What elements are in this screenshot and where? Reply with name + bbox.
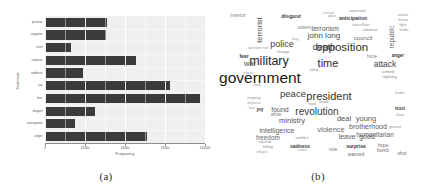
y-tick-label: positive (32, 21, 44, 24)
y-tick-label: anger (35, 135, 44, 138)
word-cloud-term: food (308, 103, 315, 107)
x-tick-label: 0 (44, 146, 46, 150)
word-cloud-term: sourcStart (352, 24, 369, 28)
word-cloud-term: war (244, 60, 256, 68)
panel-a-bar-chart: Sentiment positivenegativetrustsurprises… (0, 0, 212, 184)
word-cloud-term: death (313, 43, 336, 52)
word-cloud-term: intelligence (259, 127, 294, 134)
word-cloud-term: young (356, 115, 376, 123)
grid-line-horizontal (45, 67, 205, 68)
x-axis-tick-labels: 0250005000075000100000 (45, 144, 205, 152)
y-tick-label: disgust (33, 110, 44, 113)
word-cloud-term: plan (328, 15, 335, 19)
word-cloud-term: break (319, 101, 329, 105)
word-cloud-term: crisis (298, 149, 307, 153)
bar (45, 56, 136, 65)
panel-a-caption: (a) (0, 170, 212, 182)
y-tick-label: negative (31, 33, 44, 36)
y-tick-label: sadness (31, 72, 44, 75)
y-tick-label: fear (37, 97, 44, 100)
word-cloud-term: conflict (295, 136, 308, 140)
word-cloud-term: leave (339, 133, 356, 140)
bar-chart-area: Sentiment positivenegativetrustsurprises… (0, 6, 212, 156)
word-cloud-term: terrorism (311, 25, 339, 32)
word-cloud-term: vote (329, 148, 338, 153)
word-cloud-term: attend (243, 72, 252, 75)
word-cloud-term: surprise (346, 144, 366, 149)
word-cloud-term: force (367, 55, 377, 60)
bar (45, 30, 106, 39)
grid-line-horizontal (45, 130, 205, 131)
word-cloud-term: violent (297, 26, 310, 31)
word-cloud-term: shot (397, 152, 406, 157)
word-cloud-term: council (354, 35, 373, 41)
word-cloud-term: anticipation (339, 16, 367, 21)
word-cloud-term: john long (308, 32, 340, 40)
grid-line-horizontal (45, 41, 205, 42)
word-cloud-term: trust (395, 107, 405, 112)
plot-panel (45, 16, 205, 143)
word-cloud-area: governmentmilitaryoppositionpresidenttim… (220, 4, 416, 154)
word-cloud-term: brotherhood (349, 123, 387, 130)
word-cloud-term: republic (389, 26, 396, 49)
bar (45, 81, 170, 90)
word-cloud-term: joy (257, 108, 264, 113)
word-cloud-term: injured (259, 140, 271, 144)
bar (45, 107, 95, 116)
word-cloud-term: leader (395, 92, 405, 96)
word-cloud-term: warned (348, 152, 364, 157)
word-cloud-term: land (254, 84, 261, 88)
word-cloud-term: king (292, 38, 298, 41)
grid-line-horizontal (45, 29, 205, 30)
word-cloud-term: killed (310, 69, 318, 73)
grid-line-horizontal (45, 54, 205, 55)
word-cloud-term: hope (378, 144, 389, 149)
panel-b-caption: (b) (212, 170, 424, 182)
word-cloud-term: white (271, 113, 282, 118)
grid-line-horizontal (45, 92, 205, 93)
y-axis-tick-labels: positivenegativetrustsurprisesadnessjoyf… (17, 16, 44, 143)
word-cloud-term: deal (337, 115, 351, 123)
word-cloud-term: strike (399, 29, 408, 33)
word-cloud-term: disgust (281, 14, 301, 20)
grid-line-horizontal (45, 105, 205, 106)
figure-container: Sentiment positivenegativetrustsurprises… (0, 0, 424, 184)
word-cloud-term: good (359, 133, 375, 140)
word-cloud-term: police (270, 40, 294, 49)
word-cloud-term: general (389, 126, 401, 130)
word-cloud-term: show (396, 114, 404, 118)
y-tick-label: surprise (31, 59, 44, 62)
word-cloud-term: ministry (279, 117, 305, 125)
word-cloud-term: continue (362, 28, 377, 32)
bar (45, 132, 147, 141)
word-cloud-term: refugee (256, 151, 268, 154)
word-cloud-term: fighting (383, 75, 397, 79)
x-axis-title: Frequency (45, 152, 205, 156)
word-cloud-term: fear (239, 54, 248, 59)
bar (45, 119, 75, 128)
bar (45, 18, 107, 27)
bar (45, 43, 71, 52)
x-tick-label: 25000 (81, 146, 90, 150)
y-tick-label: anticipation (27, 122, 44, 125)
x-tick-label: 100000 (200, 146, 210, 150)
word-cloud-term: attack (374, 60, 397, 69)
word-cloud-term: operation rule (248, 47, 269, 50)
y-tick-label: trust (36, 46, 44, 49)
bar (45, 94, 200, 103)
x-tick-label: 75000 (161, 146, 170, 150)
word-cloud-term: time (318, 58, 339, 69)
word-cloud-term: terrorist (256, 17, 264, 42)
word-cloud-term: anger (392, 54, 404, 59)
word-cloud-term: interior (230, 13, 245, 18)
word-cloud-term: peace (280, 89, 306, 99)
word-cloud-term: bomb (377, 149, 389, 154)
grid-line-horizontal (45, 80, 205, 81)
y-tick-label: joy (39, 84, 44, 87)
word-cloud-term: hair (249, 107, 255, 111)
word-cloud-term: expected (349, 9, 365, 13)
grid-line-horizontal (45, 118, 205, 119)
x-tick-label: 50000 (121, 146, 130, 150)
word-cloud-term: change (276, 50, 289, 54)
panel-b-word-cloud: governmentmilitaryoppositionpresidenttim… (212, 0, 424, 184)
